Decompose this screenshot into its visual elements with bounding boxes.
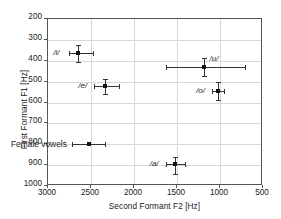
errorbar-cap-right <box>93 51 94 56</box>
legend-errorbar-cap-right <box>105 142 106 147</box>
errorbar-cap-left <box>166 162 167 167</box>
y-axis-tick-label: 200 <box>2 12 42 21</box>
errorbar-cap-right <box>224 89 225 94</box>
errorbar-cap-bottom <box>173 174 178 175</box>
legend-errorbar-cap-left <box>72 142 73 147</box>
y-axis-tick <box>44 185 47 186</box>
gridline-horizontal <box>48 40 261 41</box>
errorbar-cap-left <box>94 84 95 89</box>
point-label-i: /i/ <box>53 48 59 57</box>
marker-square <box>173 162 177 166</box>
errorbar-cap-bottom <box>202 76 207 77</box>
y-axis-tick-label: 700 <box>2 116 42 125</box>
x-axis-tick-label: 1500 <box>156 188 196 197</box>
errorbar-cap-top <box>173 157 178 158</box>
y-axis-tick <box>44 81 47 82</box>
vowel-formant-chart: First Formant F1 [Hz] Second Formant F2 … <box>0 0 281 219</box>
marker-square <box>103 84 107 88</box>
y-axis-tick <box>44 60 47 61</box>
y-axis-tick-label: 400 <box>2 54 42 63</box>
gridline-vertical <box>220 19 221 184</box>
marker-square <box>202 65 206 69</box>
marker-square <box>216 89 220 93</box>
y-axis-tick-label: 500 <box>2 75 42 84</box>
legend-label: Female vowels <box>11 139 67 149</box>
legend-square-marker <box>87 142 91 146</box>
errorbar-cap-right <box>119 84 120 89</box>
errorbar-cap-top <box>103 79 108 80</box>
point-label-a: /a/ <box>150 159 159 168</box>
legend-marker-sample <box>72 141 106 147</box>
x-axis-tick-label: 2500 <box>70 188 110 197</box>
x-axis-tick-label: 1000 <box>199 188 239 197</box>
y-axis-tick-label: 600 <box>2 96 42 105</box>
x-axis-tick-label: 3000 <box>27 188 67 197</box>
point-label-e: /e/ <box>78 81 87 90</box>
gridline-vertical <box>134 19 135 184</box>
y-axis-tick <box>44 102 47 103</box>
gridline-horizontal <box>48 123 261 124</box>
errorbar-cap-right <box>245 65 246 70</box>
point-label-o: /o/ <box>196 86 205 95</box>
errorbar-cap-left <box>166 65 167 70</box>
y-axis-tick <box>44 18 47 19</box>
y-axis-tick-label: 1000 <box>2 179 42 188</box>
chart-legend: Female vowels <box>11 139 106 149</box>
errorbar-cap-top <box>76 45 81 46</box>
gridline-vertical <box>177 19 178 184</box>
errorbar-cap-top <box>202 58 207 59</box>
errorbar-cap-left <box>69 51 70 56</box>
errorbar-cap-top <box>216 82 221 83</box>
y-axis-tick-label: 300 <box>2 33 42 42</box>
errorbar-cap-bottom <box>216 100 221 101</box>
gridline-horizontal <box>48 103 261 104</box>
errorbar-cap-bottom <box>103 94 108 95</box>
x-axis-title: Second Formant F2 [Hz] <box>47 202 262 211</box>
errorbar-cap-right <box>185 162 186 167</box>
y-axis-tick <box>44 39 47 40</box>
errorbar-cap-bottom <box>76 62 81 63</box>
errorbar-cap-left <box>212 89 213 94</box>
marker-square <box>76 51 80 55</box>
y-axis-tick <box>44 164 47 165</box>
point-label-u: /u/ <box>210 54 219 63</box>
errorbar-horizontal <box>69 53 92 54</box>
y-axis-tick <box>44 122 47 123</box>
gridline-vertical <box>91 19 92 184</box>
x-axis-tick-label: 2000 <box>113 188 153 197</box>
y-axis-tick-label: 900 <box>2 158 42 167</box>
x-axis-tick-label: 500 <box>242 188 281 197</box>
